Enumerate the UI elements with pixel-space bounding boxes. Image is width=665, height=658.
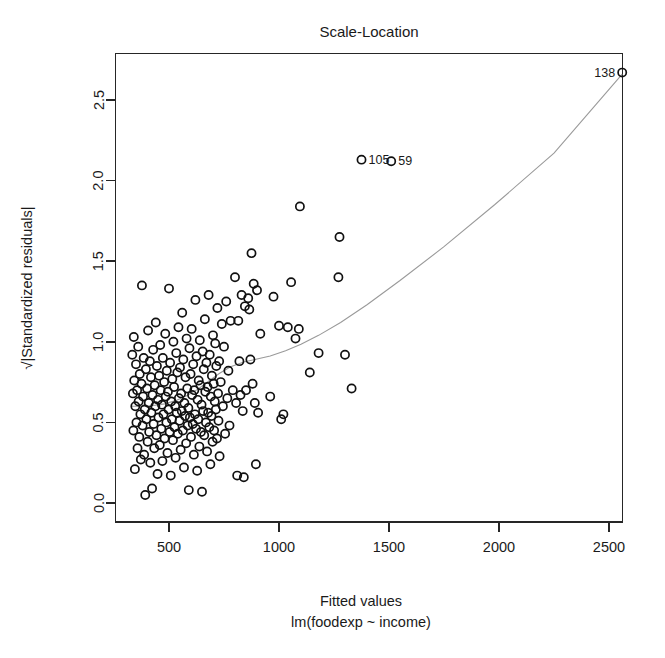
data-point xyxy=(183,334,191,342)
data-point xyxy=(222,297,230,305)
data-point xyxy=(219,402,227,410)
data-point xyxy=(196,336,204,344)
y-tick-label: 1.0 xyxy=(91,332,107,352)
outlier-label: 105 xyxy=(369,153,390,167)
data-point xyxy=(184,422,192,430)
data-point xyxy=(160,378,168,386)
data-point xyxy=(201,315,209,323)
page-title: Scale-Location xyxy=(319,23,418,40)
data-point xyxy=(341,351,349,359)
data-point xyxy=(163,449,171,457)
data-point xyxy=(185,344,193,352)
data-point xyxy=(251,399,259,407)
data-point xyxy=(132,360,140,368)
data-point xyxy=(334,273,342,281)
data-point xyxy=(178,309,186,317)
data-point xyxy=(156,341,164,349)
outlier-label: 138 xyxy=(594,66,615,80)
data-point xyxy=(166,359,174,367)
x-axis-title: Fitted values xyxy=(320,593,402,609)
data-point xyxy=(287,278,295,286)
data-point xyxy=(148,484,156,492)
data-point xyxy=(206,351,214,359)
data-point xyxy=(147,373,155,381)
data-point xyxy=(291,334,299,342)
data-point xyxy=(163,367,171,375)
data-point xyxy=(172,454,180,462)
data-point xyxy=(249,380,257,388)
data-point xyxy=(266,393,274,401)
data-point xyxy=(211,339,219,347)
data-point xyxy=(256,330,264,338)
data-point xyxy=(169,338,177,346)
data-point xyxy=(153,362,161,370)
data-point xyxy=(138,281,146,289)
data-point xyxy=(134,343,142,351)
x-axis-tick-labels: 5001000150020002500 xyxy=(157,539,625,555)
data-point xyxy=(295,325,303,333)
data-point xyxy=(195,376,203,384)
data-point xyxy=(335,233,343,241)
data-point xyxy=(214,417,222,425)
data-point xyxy=(284,323,292,331)
scatter-points xyxy=(128,69,626,500)
data-point xyxy=(179,355,187,363)
y-tick-label: 0.5 xyxy=(91,412,107,432)
data-point xyxy=(133,444,141,452)
data-point xyxy=(203,447,211,455)
data-point xyxy=(225,422,233,430)
data-point xyxy=(190,451,198,459)
data-point xyxy=(252,460,260,468)
data-point xyxy=(185,486,193,494)
data-point xyxy=(195,442,203,450)
data-point xyxy=(218,320,226,328)
data-point xyxy=(135,433,143,441)
data-point xyxy=(153,470,161,478)
data-point xyxy=(161,330,169,338)
data-point xyxy=(180,463,188,471)
chart-canvas: 5001000150020002500 0.00.51.01.52.02.5 1… xyxy=(0,0,665,658)
data-point xyxy=(187,433,195,441)
data-point xyxy=(167,472,175,480)
data-point xyxy=(296,202,304,210)
data-point xyxy=(205,291,213,299)
outlier-labels: 13810559 xyxy=(369,66,616,169)
data-point xyxy=(152,318,160,326)
x-tick-label: 2500 xyxy=(593,539,625,555)
x-tick-label: 2000 xyxy=(483,539,515,555)
data-point xyxy=(306,368,314,376)
y-tick-label: 2.0 xyxy=(91,171,107,191)
data-point xyxy=(315,349,323,357)
data-point xyxy=(158,457,166,465)
data-point xyxy=(198,488,206,496)
data-point xyxy=(209,331,217,339)
data-point xyxy=(357,156,365,164)
data-point xyxy=(275,322,283,330)
y-tick-label: 1.5 xyxy=(91,251,107,271)
data-point xyxy=(229,386,237,394)
data-point xyxy=(239,407,247,415)
data-point xyxy=(269,293,277,301)
data-point xyxy=(165,285,173,293)
data-point xyxy=(216,452,224,460)
scale-location-plot: 5001000150020002500 0.00.51.01.52.02.5 1… xyxy=(0,0,665,658)
data-point xyxy=(174,323,182,331)
data-point xyxy=(189,360,197,368)
y-axis-ticks xyxy=(106,100,116,503)
x-tick-label: 1000 xyxy=(263,539,295,555)
data-point xyxy=(214,389,222,397)
data-point xyxy=(220,343,228,351)
data-point xyxy=(144,438,152,446)
data-point xyxy=(166,428,174,436)
data-point xyxy=(128,351,136,359)
data-point xyxy=(144,326,152,334)
data-point xyxy=(232,399,240,407)
data-point xyxy=(223,394,231,402)
data-point xyxy=(247,249,255,257)
data-point xyxy=(170,383,178,391)
y-axis-title: √|Standardized residuals| xyxy=(19,207,35,370)
data-point xyxy=(130,333,138,341)
data-point xyxy=(142,365,150,373)
data-point xyxy=(191,296,199,304)
y-tick-label: 0.0 xyxy=(91,493,107,513)
